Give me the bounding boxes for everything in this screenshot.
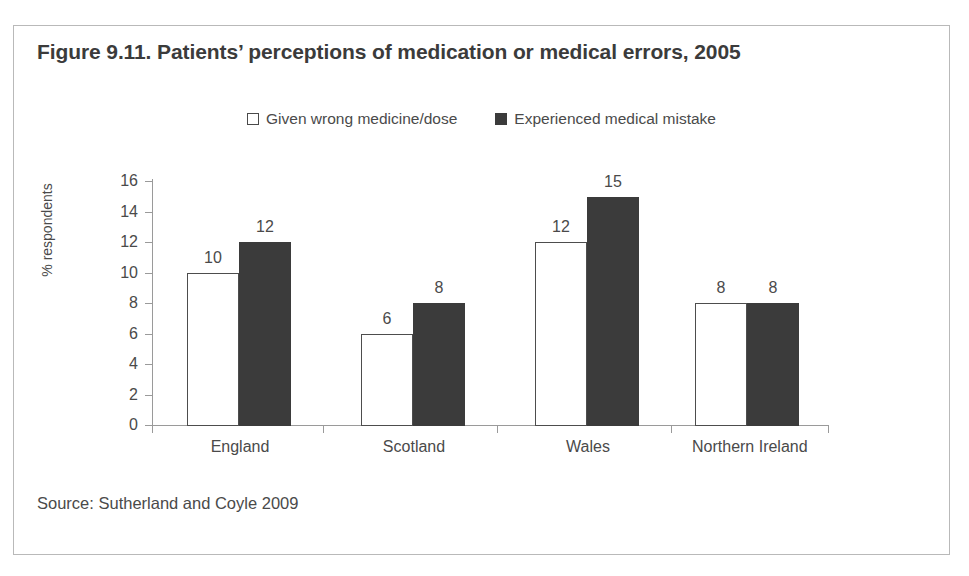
x-axis-category-label: Northern Ireland — [692, 438, 802, 456]
y-axis-tick-label: 10 — [98, 265, 138, 281]
plot-area: % respondents 0 2 4 6 8 10 12 14 16 10 — [14, 26, 949, 554]
source-note: Source: Sutherland and Coyle 2009 — [37, 494, 298, 513]
y-axis-tick-label: 6 — [98, 326, 138, 342]
x-axis-category-label: England — [185, 438, 295, 456]
y-axis-tick-label: 8 — [98, 295, 138, 311]
bar-value-label: 6 — [360, 311, 414, 327]
x-axis-tick — [828, 425, 829, 433]
bar-value-label: 12 — [534, 219, 588, 235]
x-axis-tick — [497, 425, 498, 433]
bar-value-label: 8 — [746, 280, 800, 296]
bar-scotland-experienced-medical-mistake[interactable] — [413, 303, 465, 426]
bar-value-label: 15 — [586, 174, 640, 190]
y-axis-tick-label: 0 — [98, 417, 138, 433]
x-axis-category-label: Scotland — [359, 438, 469, 456]
x-axis-tick — [152, 425, 153, 433]
bar-value-label: 8 — [412, 280, 466, 296]
bar-value-label: 12 — [238, 219, 292, 235]
bar-england-given-wrong-medicine[interactable] — [187, 273, 239, 427]
y-axis-tick — [145, 242, 153, 243]
bar-wales-experienced-medical-mistake[interactable] — [587, 197, 639, 427]
y-axis-tick — [145, 395, 153, 396]
bar-scotland-given-wrong-medicine[interactable] — [361, 334, 413, 427]
bar-value-label: 8 — [694, 280, 748, 296]
y-axis-title: % respondents — [39, 135, 55, 325]
bar-northern-ireland-experienced-medical-mistake[interactable] — [747, 303, 799, 426]
y-axis-tick — [145, 181, 153, 182]
x-axis-tick — [671, 425, 672, 433]
x-axis-category-label: Wales — [533, 438, 643, 456]
y-axis-tick — [145, 334, 153, 335]
x-axis-tick — [323, 425, 324, 433]
y-axis-tick-label: 2 — [98, 387, 138, 403]
y-axis-tick — [145, 273, 153, 274]
bar-wales-given-wrong-medicine[interactable] — [535, 242, 587, 426]
y-axis-tick-label: 16 — [98, 173, 138, 189]
figure-container: Figure 9.11. Patients’ perceptions of me… — [13, 25, 950, 555]
bar-northern-ireland-given-wrong-medicine[interactable] — [695, 303, 747, 426]
y-axis-tick — [145, 303, 153, 304]
y-axis-tick-label: 4 — [98, 356, 138, 372]
bar-england-experienced-medical-mistake[interactable] — [239, 242, 291, 426]
bar-value-label: 10 — [186, 250, 240, 266]
y-axis-tick — [145, 364, 153, 365]
y-axis-tick — [145, 212, 153, 213]
y-axis-tick-label: 12 — [98, 234, 138, 250]
y-axis-tick-label: 14 — [98, 204, 138, 220]
